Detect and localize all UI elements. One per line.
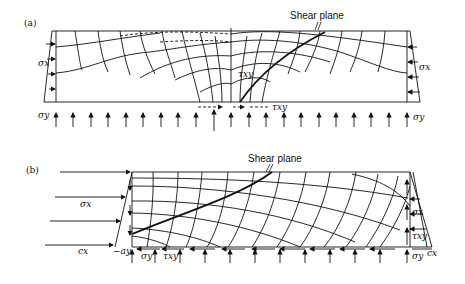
panel-b-tau-xy-right: τxy xyxy=(412,231,427,241)
panel-b-sigma-y-right: σy xyxy=(412,251,423,261)
panel-a-tau-xy-bottom: τxy xyxy=(272,102,287,112)
diagram-canvas xyxy=(0,0,465,284)
panel-a-shear-plane-label: Shear plane xyxy=(290,10,344,21)
panel-b-sigma-y-bottom: σy xyxy=(141,251,152,261)
panel-b-shear-plane-label: Shear plane xyxy=(248,153,302,164)
panel-a-sigma-y-arrows xyxy=(56,110,407,131)
panel-b-sigma-x-left: σx xyxy=(80,199,91,209)
panel-b-cx-left: cx xyxy=(78,246,88,256)
panel-b-tau-xy-bottom: τxy xyxy=(163,251,178,261)
panel-a-label: (a) xyxy=(24,18,36,28)
panel-b-cx-right: cx xyxy=(427,248,437,258)
panel-a-sigma-y-right: σy xyxy=(413,112,424,122)
panel-a-sigma-x-right: σx xyxy=(419,62,430,72)
panel-a-sigma-y-left: σy xyxy=(38,110,49,120)
panel-a-figure xyxy=(44,22,420,107)
panel-a-tau-xy-center: τxy xyxy=(238,69,253,79)
panel-a-sigma-x-left: σx xyxy=(38,58,49,68)
panel-b-figure xyxy=(45,164,432,249)
panel-b-minus-ay: −ay xyxy=(113,246,131,256)
panel-b-sigma-x-right: σx xyxy=(412,207,423,217)
panel-b-label: (b) xyxy=(26,165,39,175)
